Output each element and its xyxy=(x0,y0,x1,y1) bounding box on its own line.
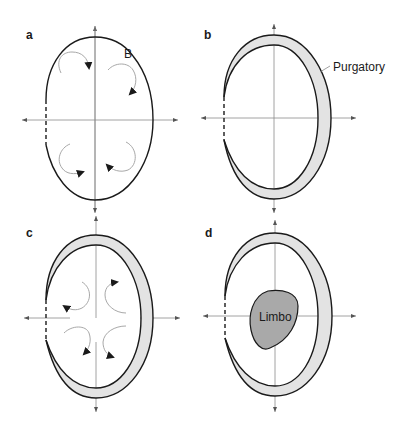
flow-arrow-bottom-left xyxy=(59,144,83,174)
limbo-label: Limbo xyxy=(259,310,292,324)
flow-arrow-upper-right xyxy=(105,282,126,313)
flow-arrow-top-right xyxy=(108,64,136,94)
panel-d: d Limbo xyxy=(203,220,356,412)
panel-c: c xyxy=(24,216,180,412)
purgatory-label: Purgatory xyxy=(333,60,385,74)
boundary-label-b: B xyxy=(124,47,132,61)
inner-boundary xyxy=(224,45,318,189)
panel-a: a B xyxy=(22,26,178,213)
flow-arrow-bottom-right xyxy=(107,142,135,171)
diagram-figure: a B b Purgatory c xyxy=(0,0,398,431)
flow-arrow-upper-left xyxy=(64,282,90,310)
boundary-b-curve-right xyxy=(46,56,153,200)
purgatory-leader-line xyxy=(320,66,330,72)
inner-boundary xyxy=(46,245,141,388)
flow-arrow-top-left xyxy=(59,52,89,73)
flow-arrow-lower-right xyxy=(103,326,126,357)
flow-arrow-lower-left xyxy=(64,327,90,354)
panel-b: b Purgatory xyxy=(201,24,385,213)
panel-label-a: a xyxy=(26,28,33,42)
panel-label-c: c xyxy=(26,226,33,240)
panel-label-d: d xyxy=(205,226,212,240)
panel-label-b: b xyxy=(204,28,211,42)
